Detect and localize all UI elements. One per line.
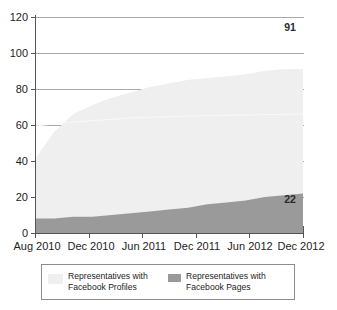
legend-label-facebook-pages-line1: Representatives with (186, 271, 266, 282)
legend-label-facebook-pages-line2: Facebook Pages (186, 282, 266, 293)
x-tick-marks (36, 234, 304, 239)
legend-swatch-facebook-profiles (48, 274, 63, 284)
legend-item-facebook-profiles: Representatives with Facebook Profiles (48, 271, 168, 293)
y-tick-label-40: 40 (16, 155, 28, 167)
y-tick-label-0: 0 (22, 227, 28, 239)
y-tick-label-120: 120 (10, 11, 28, 23)
legend-label-facebook-pages: Representatives with Facebook Pages (186, 271, 266, 293)
y-tick-label-100: 100 (10, 47, 28, 59)
y-tick-label-20: 20 (16, 191, 28, 203)
legend-label-facebook-profiles-line2: Facebook Profiles (68, 282, 148, 293)
x-tick-label-dec-2012: Dec 2012 (277, 240, 324, 252)
x-tick-label-dec-2011: Dec 2011 (174, 240, 220, 252)
legend-label-facebook-profiles: Representatives with Facebook Profiles (68, 271, 148, 293)
legend-item-facebook-pages: Representatives with Facebook Pages (168, 271, 288, 293)
x-tick-label-dec-2010: Dec 2010 (67, 240, 114, 252)
legend-label-facebook-profiles-line1: Representatives with (68, 271, 148, 282)
x-tick-label-jun-2012: Jun 2012 (227, 240, 272, 252)
legend-swatch-facebook-pages (168, 274, 181, 282)
y-tick-label-80: 80 (16, 83, 28, 95)
data-label-pages: 22 (284, 193, 296, 205)
data-label-profiles-total: 91 (284, 21, 296, 33)
x-tick-label-jun-2011: Jun 2011 (122, 240, 166, 252)
stacked-area-chart: 120 100 80 60 40 20 0 Aug 2010 Dec 2010 … (0, 0, 337, 310)
x-tick-label-aug-2010: Aug 2010 (13, 240, 60, 252)
y-tick-marks (31, 18, 35, 234)
chart-legend: Representatives with Facebook Profiles R… (41, 264, 295, 300)
y-tick-label-60: 60 (16, 119, 28, 131)
